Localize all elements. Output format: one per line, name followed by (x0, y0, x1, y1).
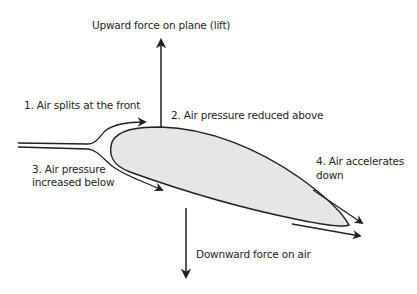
step4-label-line1: 4. Air accelerates (316, 155, 404, 168)
lift-label: Upward force on plane (lift) (92, 19, 230, 32)
step3-label-line1: 3. Air pressure (32, 163, 105, 176)
trailing-lower-arrow (292, 224, 360, 236)
airfoil-shape (111, 127, 349, 226)
step1-label: 1. Air splits at the front (24, 99, 140, 112)
step2-label: 2. Air pressure reduced above (171, 109, 323, 122)
downward-force-label: Downward force on air (196, 248, 311, 261)
step4-label-line2: down (316, 169, 344, 182)
step3-label-line2: increased below (32, 176, 114, 189)
